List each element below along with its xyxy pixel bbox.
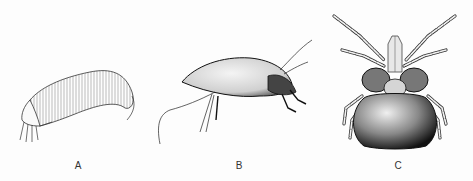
panel-label-a: A [75,160,82,171]
panel-a: A [0,0,160,181]
mite-figure: A [0,0,473,181]
mite-c-illustration [320,0,473,181]
panel-label-c: C [394,160,401,171]
mite-b-illustration [150,0,320,181]
panel-label-b: B [236,160,243,171]
panel-c: C [320,0,473,181]
mite-a-illustration [0,0,160,181]
panel-b: B [150,0,320,181]
